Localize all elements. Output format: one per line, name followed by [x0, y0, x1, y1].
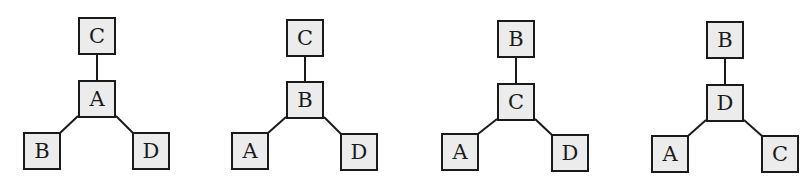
graph-2-node-right: D — [340, 133, 378, 171]
edge-center-left — [60, 116, 78, 133]
edge-center-right — [535, 119, 552, 135]
graph-3-node-center: C — [497, 83, 535, 121]
graph-1-node-center: A — [78, 80, 116, 118]
graph-3-node-right: D — [551, 134, 589, 172]
edge-center-left — [478, 119, 497, 134]
graph-1-node-right: D — [132, 132, 170, 170]
graph-3-node-left: A — [441, 133, 479, 171]
edge-center-right — [324, 117, 341, 134]
graph-1-node-top: C — [78, 17, 116, 55]
graph-2-node-center: B — [286, 81, 324, 119]
graph-4-node-left: A — [651, 135, 689, 173]
edge-center-left — [688, 120, 706, 136]
graph-4-node-right: C — [761, 135, 799, 173]
graph-4-node-center: D — [706, 84, 744, 122]
graph-1-node-left: B — [23, 132, 61, 170]
edge-center-right — [744, 120, 762, 136]
graph-4-node-top: B — [706, 21, 744, 59]
graph-2-node-top: C — [286, 19, 324, 57]
edge-center-right — [116, 116, 133, 133]
graph-3-node-top: B — [497, 20, 535, 58]
graph-2-node-left: A — [231, 132, 269, 170]
edge-center-left — [268, 117, 286, 133]
